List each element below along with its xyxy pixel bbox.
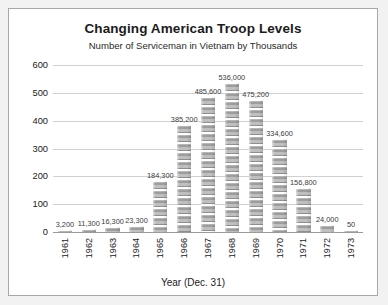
y-axis-tick-label: 300: [32, 144, 48, 154]
bar-value-label: 156,800: [290, 178, 317, 187]
bar[interactable]: [105, 227, 119, 232]
x-axis-tick-label: 1966: [179, 238, 189, 258]
x-axis-tick-label: 1973: [346, 238, 356, 258]
bar[interactable]: [344, 230, 358, 232]
bar-column[interactable]: 23,3001964: [129, 226, 143, 232]
bar[interactable]: [153, 181, 167, 232]
bar[interactable]: [129, 226, 143, 232]
bar-value-label: 16,300: [101, 217, 124, 226]
bar-column[interactable]: 475,2001969: [249, 100, 263, 232]
bar-column[interactable]: 11,3001962: [82, 229, 96, 232]
bar-value-label: 11,300: [78, 219, 100, 228]
x-axis-tick-label: 1970: [275, 238, 285, 258]
x-axis-tick-label: 1963: [108, 238, 118, 258]
bar-value-label: 475,200: [242, 90, 269, 99]
x-axis-tick-label: 1962: [84, 238, 94, 258]
y-axis-tick-label: 100: [32, 199, 48, 209]
bar-value-label: 334,600: [266, 129, 293, 138]
bar[interactable]: [177, 125, 191, 232]
bar-value-label: 536,000: [218, 73, 245, 82]
x-axis-tick-label: 1965: [155, 238, 165, 258]
chart-subtitle: Number of Serviceman in Vietnam by Thous…: [9, 40, 377, 51]
bar-column[interactable]: 16,3001963: [105, 227, 119, 232]
bar-value-label: 24,000: [316, 215, 339, 224]
bar-column[interactable]: 24,0001972: [320, 225, 334, 232]
bar[interactable]: [249, 100, 263, 232]
y-axis-tick-label: 0: [43, 227, 48, 237]
bar-value-label: 3,200: [56, 220, 75, 229]
bar-column[interactable]: 156,8001971: [296, 188, 310, 232]
x-axis-tick-label: 1972: [322, 238, 332, 258]
bar-value-label: 50: [347, 220, 355, 229]
x-axis-title: Year (Dec. 31): [9, 277, 377, 288]
bar-column[interactable]: 501973: [344, 230, 358, 232]
x-axis-tick-label: 1961: [60, 238, 70, 258]
chart-title: Changing American Troop Levels: [9, 21, 377, 36]
bar[interactable]: [296, 188, 310, 232]
x-axis-tick-label: 1964: [131, 238, 141, 258]
bar[interactable]: [320, 225, 334, 232]
y-axis-tick-label: 600: [32, 60, 48, 70]
y-axis-tick-label: 200: [32, 171, 48, 181]
bar-value-label: 23,300: [125, 216, 148, 225]
bar-value-label: 485,600: [195, 87, 222, 96]
x-axis-tick-label: 1971: [298, 238, 308, 258]
bar-column[interactable]: 485,6001967: [201, 97, 215, 232]
bar-column[interactable]: 184,3001965: [153, 181, 167, 232]
bar[interactable]: [82, 229, 96, 232]
bar-value-label: 184,300: [147, 171, 174, 180]
bar[interactable]: [58, 230, 72, 232]
y-axis-tick-label: 400: [32, 116, 48, 126]
bar[interactable]: [272, 139, 286, 232]
bar[interactable]: [201, 97, 215, 232]
x-axis-tick-label: 1969: [251, 238, 261, 258]
bar[interactable]: [225, 83, 239, 232]
x-axis-tick-label: 1968: [227, 238, 237, 258]
bar-value-label: 385,200: [171, 115, 198, 124]
bar-series: 3,200196111,300196216,300196323,30019641…: [53, 65, 363, 232]
chart-panel: Changing American Troop Levels Number of…: [8, 8, 378, 296]
bar-column[interactable]: 536,0001968: [225, 83, 239, 232]
gridline: [53, 232, 363, 233]
bar-column[interactable]: 334,6001970: [272, 139, 286, 232]
plot-area: 0100200300400500600 3,200196111,30019621…: [53, 65, 363, 232]
bar-column[interactable]: 385,2001966: [177, 125, 191, 232]
y-axis-tick-label: 500: [32, 88, 48, 98]
x-axis-tick-label: 1967: [203, 238, 213, 258]
bar-column[interactable]: 3,2001961: [58, 230, 72, 232]
